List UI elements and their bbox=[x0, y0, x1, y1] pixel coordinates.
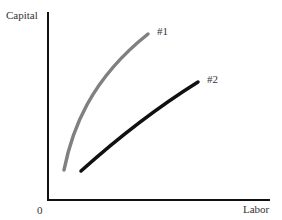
x-axis-label: Labor bbox=[243, 203, 270, 215]
y-axis-label: Capital bbox=[6, 9, 38, 21]
curve-2-label: #2 bbox=[207, 73, 218, 85]
origin-label: 0 bbox=[37, 204, 43, 216]
curve-1-label: #1 bbox=[157, 25, 168, 37]
curve-2 bbox=[81, 82, 198, 171]
isoquant-diagram: Capital Labor 0 #1 #2 bbox=[0, 0, 282, 220]
